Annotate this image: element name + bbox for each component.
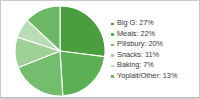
pie-chart-area [11, 3, 109, 98]
legend-item: Yoplait/Other: 13% [111, 71, 199, 82]
pie-slice [60, 6, 105, 57]
legend-item-label: Big G: 27% [117, 19, 154, 27]
legend-swatch-icon [111, 44, 114, 47]
legend-item: Meals: 22% [111, 29, 199, 40]
legend-item: Big G: 27% [111, 18, 199, 29]
legend-swatch-icon [111, 33, 114, 36]
legend-item-label: Baking: 7% [117, 61, 154, 69]
legend-item-label: Meals: 22% [117, 30, 155, 38]
card-bottom-divider [1, 97, 199, 98]
legend-swatch-icon [111, 65, 114, 68]
legend-item-label: Pillsbury: 20% [117, 40, 163, 48]
legend-item-label: Yoplait/Other: 13% [117, 72, 177, 80]
pie-chart-card: Big G: 27%Meals: 22%Pillsbury: 20%Snacks… [0, 0, 200, 99]
legend-item-label: Snacks: 11% [117, 51, 159, 59]
pie-slice [60, 51, 105, 96]
legend-swatch-icon [111, 54, 114, 57]
legend-swatch-icon [111, 75, 114, 78]
legend-item: Baking: 7% [111, 60, 199, 71]
legend-swatch-icon [111, 23, 114, 26]
legend-item: Pillsbury: 20% [111, 39, 199, 50]
pie-chart-graphic [11, 3, 109, 98]
legend-item: Snacks: 11% [111, 50, 199, 61]
chart-legend: Big G: 27%Meals: 22%Pillsbury: 20%Snacks… [111, 18, 199, 81]
